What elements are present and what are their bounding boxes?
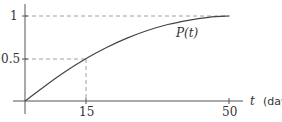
y-tick-label-half: 0.5 [1,52,20,66]
x-axis-unit: (days) [263,95,282,108]
p-of-t-curve [25,16,229,101]
y-tick-label-1: 1 [10,9,18,23]
x-axis-title: t (days) [250,90,282,109]
curve-label: P(t) [175,26,199,40]
chart: 1 0.5 15 50 P(t) t (days) [0,0,282,122]
x-tick-label-15: 15 [79,105,94,119]
x-tick-label-50: 50 [222,105,237,119]
x-axis-variable: t [250,94,255,108]
